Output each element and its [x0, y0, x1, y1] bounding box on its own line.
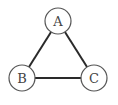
node-c: C: [81, 65, 107, 91]
node-a: A: [45, 8, 71, 34]
node-a-label: A: [52, 14, 63, 29]
node-c-label: C: [89, 71, 99, 86]
node-b: B: [9, 65, 35, 91]
triangle-graph-diagram: A B C: [0, 0, 118, 105]
node-b-label: B: [17, 71, 27, 86]
